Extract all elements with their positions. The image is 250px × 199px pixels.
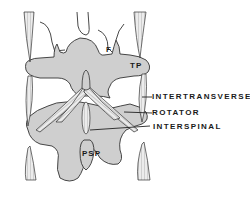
psp-label: PSP (82, 150, 101, 158)
rotator-callout: ROTATOR (152, 109, 200, 117)
intertransverse-right-top (134, 12, 146, 58)
facet-label: F (106, 46, 112, 54)
interspinal-muscle (82, 102, 90, 134)
intertransverse-left-top (24, 12, 34, 62)
intertransverse-callout: INTERTRANSVERSE (152, 93, 250, 101)
right-facet-outline-2 (116, 24, 124, 40)
intertransverse-right-bottom (138, 142, 151, 180)
interspinal-callout: INTERSPINAL (153, 123, 222, 131)
upper-spinous-process (77, 12, 89, 35)
transverse-process-label: TP (130, 62, 142, 70)
left-facet-outline (40, 22, 65, 52)
intertransverse-left-bottom (25, 146, 36, 180)
